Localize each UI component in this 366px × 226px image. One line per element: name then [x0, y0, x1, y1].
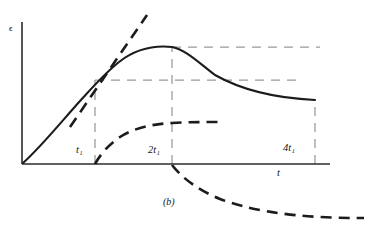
x-tick-label-2t1: 2t₁	[148, 145, 160, 156]
negative-decay-curve	[172, 165, 364, 218]
plot-canvas	[0, 0, 366, 226]
y-axis-label: ϵ	[9, 24, 13, 33]
total-strain-curve	[23, 47, 315, 163]
x-tick-label-4t1: 4t₁	[283, 143, 295, 154]
x-axis-label: t	[277, 168, 280, 179]
figure-container: ϵ t₁ 2t₁ 4t₁ t (b)	[0, 0, 366, 226]
x-tick-label-t1: t₁	[76, 145, 83, 156]
figure-caption: (b)	[163, 197, 175, 207]
recovery-curve	[95, 122, 218, 164]
